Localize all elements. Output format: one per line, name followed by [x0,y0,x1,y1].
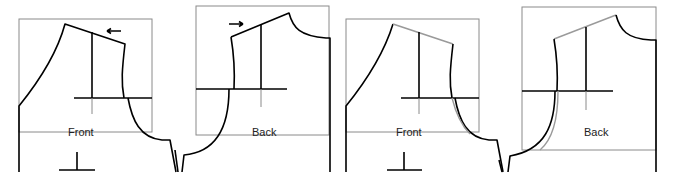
arrow-right-icon [229,22,243,27]
waist-mark [387,152,422,170]
adjusted-shoulder-seam [554,15,616,39]
back-after-panel: Back [499,7,656,172]
back-before-panel: Back [175,6,330,172]
front-label: Front [396,126,422,138]
front-label: Front [68,126,94,138]
side-seam [231,37,234,89]
armhole-curve [182,89,229,172]
back-label: Back [584,126,609,138]
back-outline [231,13,330,172]
front-after-panel: Front [346,19,503,172]
frame [196,6,329,135]
back-label: Back [252,126,277,138]
back-outline [616,15,656,172]
side-seam [554,39,557,91]
armhole-curve [508,91,555,172]
pattern-diagram: Front Back Front [0,0,674,185]
waist-mark [59,152,95,170]
arrow-left-icon [107,29,121,34]
front-before-panel: Front [19,19,176,172]
adjusted-shoulder-seam [393,24,453,44]
front-outline [346,24,393,172]
